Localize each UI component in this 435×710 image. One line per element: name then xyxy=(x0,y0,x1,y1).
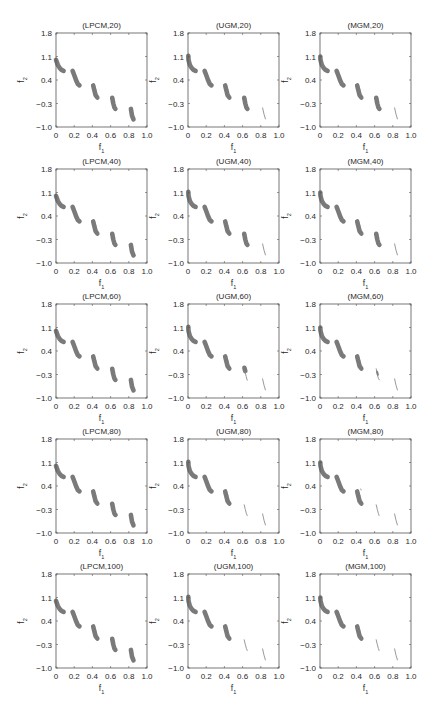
x-tick-label: 0 xyxy=(54,537,59,546)
x-tick-label: 1.0 xyxy=(405,267,417,276)
pareto-segment-4 xyxy=(112,98,115,109)
x-tick-label: 1.0 xyxy=(273,537,285,546)
x-axis-label-subscript: 1 xyxy=(101,554,104,560)
pareto-segment-2 xyxy=(337,342,344,357)
x-tick-label: 0 xyxy=(318,267,323,276)
y-tick-label: 1.8 xyxy=(305,435,317,444)
y-tick-label: 0.4 xyxy=(173,617,185,626)
x-axis-label-subscript: 1 xyxy=(365,554,368,560)
x-tick-label: 0.4 xyxy=(351,537,363,546)
y-tick-label: −1.0 xyxy=(168,123,184,132)
y-axis-label: f2 xyxy=(148,483,160,488)
x-tick-label: 0.2 xyxy=(333,131,345,140)
x-tick-label: 0 xyxy=(54,131,59,140)
panel-mgm-20: 00.20.40.60.81.01.81.10.4−0.3−1.0(MGM,20… xyxy=(280,21,417,154)
pareto-segment-5 xyxy=(395,244,398,255)
pareto-segment-2 xyxy=(205,207,212,222)
panel-mgm-100: 00.20.40.60.81.01.81.10.4−0.3−1.0(MGM,10… xyxy=(280,562,417,695)
panel-lpcm-20: 00.20.40.60.81.01.81.10.4−0.3−1.0(LPCM,2… xyxy=(16,21,153,154)
y-axis-label: f2 xyxy=(148,348,160,353)
x-tick-label: 0.6 xyxy=(105,267,117,276)
pareto-segment-1 xyxy=(320,57,327,71)
y-tick-label: 1.1 xyxy=(41,459,53,468)
pareto-segment-5 xyxy=(263,108,266,119)
x-axis-label: f1 xyxy=(231,413,236,425)
y-tick-label: −0.3 xyxy=(300,371,316,380)
y-tick-label: −0.3 xyxy=(36,236,52,245)
pareto-segment-5 xyxy=(263,379,266,390)
x-tick-label: 0 xyxy=(318,672,323,681)
data-series xyxy=(320,328,397,390)
y-axis-label: f2 xyxy=(148,213,160,218)
pareto-segment-2 xyxy=(205,342,212,357)
y-tick-label: 0.4 xyxy=(173,212,185,221)
pareto-segment-1 xyxy=(188,192,195,207)
plot-frame xyxy=(320,304,411,398)
x-axis-label-subscript: 1 xyxy=(101,689,104,695)
y-tick-label: −1.0 xyxy=(300,664,316,673)
panel-ugm-100: 00.20.40.60.81.01.81.10.4−0.3−1.0(UGM,10… xyxy=(148,562,285,695)
x-tick-label: 0.4 xyxy=(87,267,99,276)
y-tick-label: 0.4 xyxy=(305,212,317,221)
y-tick-label: −1.0 xyxy=(36,664,52,673)
y-tick-label: 0.4 xyxy=(173,76,185,85)
x-tick-label: 0.4 xyxy=(87,131,99,140)
x-tick-label: 0.6 xyxy=(105,672,117,681)
panel-lpcm-80: 00.20.40.60.81.01.81.10.4−0.3−1.0(LPCM,8… xyxy=(16,427,153,560)
plot-title: (MGM,40) xyxy=(348,157,384,166)
pareto-segment-3 xyxy=(225,491,229,503)
y-tick-label: 0.4 xyxy=(41,347,53,356)
panel-ugm-80: 00.20.40.60.81.01.81.10.4−0.3−1.0(UGM,80… xyxy=(148,427,285,560)
x-tick-label: 0.6 xyxy=(237,131,249,140)
y-tick-label: −1.0 xyxy=(168,664,184,673)
x-tick-label: 0.4 xyxy=(219,672,231,681)
x-tick-label: 1.0 xyxy=(273,672,285,681)
y-tick-label: −1.0 xyxy=(300,123,316,132)
x-tick-label: 0.8 xyxy=(387,402,399,411)
x-tick-label: 0.2 xyxy=(333,402,345,411)
pareto-segment-2 xyxy=(205,71,212,86)
y-tick-label: 1.8 xyxy=(41,570,53,579)
pareto-segment-1 xyxy=(56,196,64,207)
y-tick-label: 1.1 xyxy=(305,459,317,468)
y-tick-label: −0.3 xyxy=(300,236,316,245)
pareto-segment-5 xyxy=(263,649,266,660)
x-tick-label: 0.6 xyxy=(237,267,249,276)
pareto-segment-2 xyxy=(337,477,344,492)
y-tick-label: 1.1 xyxy=(173,594,185,603)
pareto-segment-1 xyxy=(188,56,195,71)
y-tick-label: 0.4 xyxy=(41,212,53,221)
plot-frame xyxy=(320,33,411,127)
plot-title: (LPCM,60) xyxy=(82,292,121,301)
pareto-segment-3 xyxy=(93,626,97,638)
y-axis-label: f2 xyxy=(16,483,28,488)
plot-title: (UGM,80) xyxy=(216,427,251,436)
y-tick-label: 1.8 xyxy=(41,300,53,309)
y-axis-label-subscript: 2 xyxy=(154,483,160,486)
data-series xyxy=(56,331,134,390)
y-tick-label: 1.8 xyxy=(173,29,185,38)
plot-title: (MGM,100) xyxy=(345,562,386,571)
x-tick-label: 0.8 xyxy=(123,537,135,546)
plot-title: (MGM,80) xyxy=(348,427,384,436)
pareto-segment-5 xyxy=(131,109,134,119)
x-tick-label: 0.4 xyxy=(219,537,231,546)
figure-page: 00.20.40.60.81.01.81.10.4−0.3−1.0(LPCM,2… xyxy=(0,0,435,710)
x-tick-label: 1.0 xyxy=(141,402,153,411)
pareto-segment-2 xyxy=(337,612,344,627)
y-axis-label: f2 xyxy=(280,483,292,488)
y-tick-label: −0.3 xyxy=(168,641,184,650)
x-tick-label: 1.0 xyxy=(273,131,285,140)
data-series xyxy=(56,601,134,660)
pareto-segment-1 xyxy=(320,193,327,207)
x-axis-label-subscript: 1 xyxy=(101,148,104,154)
x-tick-label: 0.2 xyxy=(201,402,213,411)
plot-frame xyxy=(188,304,279,398)
y-axis-label-subscript: 2 xyxy=(286,483,292,486)
data-series xyxy=(188,192,265,255)
x-tick-label: 0.2 xyxy=(69,672,81,681)
y-axis-label-subscript: 2 xyxy=(22,348,28,351)
x-axis-label-subscript: 1 xyxy=(365,689,368,695)
x-tick-label: 0.8 xyxy=(255,672,267,681)
x-tick-label: 0.8 xyxy=(123,402,135,411)
